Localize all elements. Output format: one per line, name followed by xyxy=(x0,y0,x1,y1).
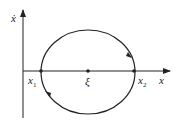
point-x2 xyxy=(132,69,136,73)
orbit-arrow-left-icon xyxy=(45,91,51,97)
x-axis-label: x xyxy=(158,74,164,86)
point-xi xyxy=(86,69,90,73)
x2-label: x2 xyxy=(137,74,147,89)
phase-portrait-diagram: ẋ x x1 ξ x2 xyxy=(0,0,178,123)
y-axis-label: ẋ xyxy=(10,12,16,24)
x1-label: x1 xyxy=(27,74,37,89)
point-x1 xyxy=(39,69,43,73)
xi-label: ξ xyxy=(85,75,90,88)
